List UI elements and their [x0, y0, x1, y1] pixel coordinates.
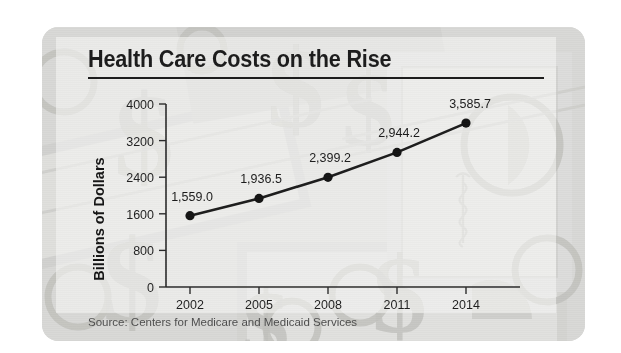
- x-tick-label: 2014: [452, 298, 480, 312]
- y-tick-label: 2400: [126, 171, 154, 185]
- data-point-label: 3,585.7: [449, 97, 491, 111]
- data-point-label: 1,936.5: [240, 172, 282, 186]
- x-tick-label: 2005: [245, 298, 273, 312]
- y-tick-label: 0: [147, 281, 154, 295]
- chart-screenshot: $ $ $ $ $ $: [0, 0, 621, 353]
- data-point-marker[interactable]: [392, 148, 401, 157]
- y-tick-label: 1600: [126, 208, 154, 222]
- data-point-label: 1,559.0: [171, 190, 213, 204]
- data-point-marker[interactable]: [185, 211, 194, 220]
- plot-area: Billions of Dollars 4000 3200 2400 1600: [42, 27, 585, 341]
- y-tick-label: 3200: [126, 135, 154, 149]
- x-tick-label: 2002: [176, 298, 204, 312]
- data-point-label: 2,944.2: [378, 126, 420, 140]
- data-point-marker[interactable]: [461, 119, 470, 128]
- data-point-marker[interactable]: [323, 173, 332, 182]
- x-tick-label: 2008: [314, 298, 342, 312]
- y-axis-title: Billions of Dollars: [91, 157, 107, 280]
- y-tick-label: 800: [133, 244, 154, 258]
- line-chart-svg: Billions of Dollars 4000 3200 2400 1600: [42, 27, 585, 341]
- chart-card: $ $ $ $ $ $: [42, 27, 585, 341]
- x-axis-ticks: 2002 2005 2008 2011 2014: [176, 287, 480, 312]
- data-series-line: [190, 123, 466, 216]
- data-point-label: 2,399.2: [309, 151, 351, 165]
- data-point-marker[interactable]: [254, 194, 263, 203]
- source-note: Source: Centers for Medicare and Medicai…: [88, 316, 357, 328]
- y-tick-label: 4000: [126, 98, 154, 112]
- x-tick-label: 2011: [384, 298, 411, 312]
- y-axis-ticks: 4000 3200 2400 1600 800 0: [126, 98, 166, 295]
